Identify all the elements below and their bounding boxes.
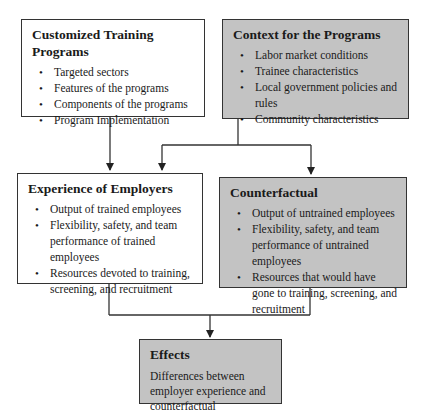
bullet-list: Labor market conditions Trainee characte…	[233, 47, 400, 127]
box-title: Context for the Programs	[233, 26, 400, 43]
list-item: Program Implementation	[54, 112, 196, 128]
box-description: Differences between employer experience …	[150, 369, 273, 414]
list-item: Targeted sectors	[54, 64, 196, 80]
bullet-list: Output of trained employees Flexibility,…	[28, 201, 194, 297]
list-item: Resources that would have gone to traini…	[252, 269, 398, 317]
box-title: Counterfactual	[230, 184, 398, 201]
list-item: Flexibility, safety, and team performanc…	[252, 221, 398, 269]
box-counterfactual: Counterfactual Output of untrained emplo…	[219, 177, 407, 288]
box-title: Experience of Employers	[28, 180, 194, 197]
list-item: Trainee characteristics	[255, 63, 400, 79]
box-effects: Effects Differences between employer exp…	[139, 339, 282, 404]
box-title: Customized Training Programs	[32, 26, 196, 60]
box-experience-of-employers: Experience of Employers Output of traine…	[17, 173, 203, 284]
list-item: Community characteristics	[255, 111, 400, 127]
list-item: Components of the programs	[54, 96, 196, 112]
list-item: Local government policies and rules	[255, 79, 400, 111]
bullet-list: Targeted sectors Features of the program…	[32, 64, 196, 128]
list-item: Features of the programs	[54, 80, 196, 96]
list-item: Labor market conditions	[255, 47, 400, 63]
list-item: Output of untrained employees	[252, 205, 398, 221]
box-customized-training: Customized Training Programs Targeted se…	[21, 19, 205, 117]
box-context: Context for the Programs Labor market co…	[222, 19, 409, 119]
box-title: Effects	[150, 346, 273, 363]
list-item: Flexibility, safety, and team performanc…	[50, 217, 194, 265]
bullet-list: Output of untrained employees Flexibilit…	[230, 205, 398, 317]
list-item: Resources devoted to training, screening…	[50, 265, 194, 297]
list-item: Output of trained employees	[50, 201, 194, 217]
